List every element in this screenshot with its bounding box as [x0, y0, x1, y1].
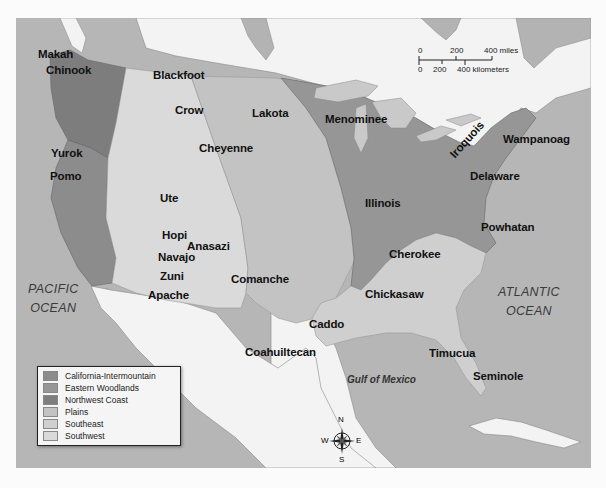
atlantic-ocean-line2: OCEAN: [498, 302, 560, 321]
compass-n: N: [338, 415, 344, 424]
tribe-label-comanche: Comanche: [231, 273, 289, 285]
scale-km-0: 0: [418, 65, 422, 74]
pacific-ocean-line2: OCEAN: [28, 299, 78, 318]
tribe-label-timucua: Timucua: [429, 347, 475, 359]
tribe-label-makah: Makah: [38, 48, 73, 60]
atlantic-ocean-label: ATLANTIC OCEAN: [498, 283, 560, 321]
legend-swatch: [43, 419, 58, 429]
tribe-label-blackfoot: Blackfoot: [153, 69, 205, 81]
pacific-ocean-label: PACIFIC OCEAN: [28, 280, 78, 318]
tribe-label-zuni: Zuni: [160, 270, 184, 282]
tribe-label-wampanoag: Wampanoag: [503, 133, 570, 145]
legend-swatch: [43, 407, 58, 417]
scale-miles-400: 400 miles: [484, 46, 518, 55]
legend-item-california-intermountain: California-Intermountain: [43, 370, 180, 382]
scale-miles-200: 200: [450, 46, 463, 55]
legend-swatch: [43, 431, 58, 441]
legend-item-southeast: Southeast: [43, 418, 180, 430]
pacific-ocean-line1: PACIFIC: [28, 280, 78, 299]
tribe-label-seminole: Seminole: [473, 370, 523, 382]
tribe-label-navajo: Navajo: [158, 251, 195, 263]
legend-item-southwest: Southwest: [43, 430, 180, 442]
compass-e: E: [356, 436, 361, 445]
culture-regions-map: Makah Chinook Blackfoot Crow Lakota Meno…: [16, 18, 591, 468]
tribe-label-crow: Crow: [175, 104, 203, 116]
tribe-label-pomo: Pomo: [50, 170, 82, 182]
scale-km-400: 400 kilometers: [457, 65, 509, 74]
tribe-label-powhatan: Powhatan: [481, 221, 535, 233]
tribe-label-delaware: Delaware: [470, 170, 520, 182]
legend-swatch: [43, 383, 58, 393]
scale-miles-0: 0: [418, 46, 422, 55]
atlantic-ocean-line1: ATLANTIC: [498, 283, 560, 302]
compass-w: W: [321, 436, 329, 445]
tribe-label-chinook: Chinook: [46, 64, 91, 76]
map-legend: California-Intermountain Eastern Woodlan…: [37, 366, 181, 446]
tribe-label-hopi: Hopi: [162, 229, 187, 241]
tribe-label-lakota: Lakota: [252, 107, 288, 119]
gulf-of-mexico-label: Gulf of Mexico: [347, 374, 416, 385]
tribe-label-caddo: Caddo: [309, 318, 344, 330]
scale-bar: 0 200 400 miles 0 200 400 kilometers: [418, 46, 588, 86]
scale-km-200: 200: [433, 65, 446, 74]
compass-rose-icon: N S W E: [322, 416, 362, 466]
legend-item-plains: Plains: [43, 406, 180, 418]
tribe-label-yurok: Yurok: [51, 147, 82, 159]
legend-item-northwest-coast: Northwest Coast: [43, 394, 180, 406]
tribe-label-chickasaw: Chickasaw: [365, 288, 424, 300]
tribe-label-menominee: Menominee: [325, 113, 387, 125]
compass-s: S: [339, 455, 344, 464]
tribe-label-illinois: Illinois: [365, 197, 401, 209]
tribe-label-cheyenne: Cheyenne: [199, 142, 253, 154]
legend-swatch: [43, 371, 58, 381]
tribe-label-apache: Apache: [148, 289, 189, 301]
tribe-label-ute: Ute: [160, 192, 178, 204]
tribe-label-coahuiltecan: Coahuiltecan: [245, 346, 316, 358]
tribe-label-cherokee: Cherokee: [389, 248, 441, 260]
legend-item-eastern-woodlands: Eastern Woodlands: [43, 382, 180, 394]
legend-swatch: [43, 395, 58, 405]
